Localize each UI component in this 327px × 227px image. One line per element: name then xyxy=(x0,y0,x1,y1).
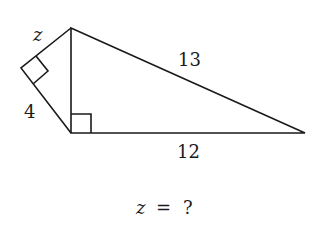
question-equals: = xyxy=(156,197,171,218)
right-angle-marker-left xyxy=(33,56,48,84)
label-z: z xyxy=(32,24,43,45)
question: z = ? xyxy=(135,197,193,218)
question-mark: ? xyxy=(183,197,193,218)
label-4: 4 xyxy=(24,101,35,122)
label-12: 12 xyxy=(177,141,200,162)
right-angle-marker-bottom xyxy=(71,114,91,133)
question-variable: z xyxy=(135,197,146,218)
large-triangle xyxy=(71,28,305,133)
geometry-diagram: z 4 13 12 z = ? xyxy=(0,0,327,227)
label-13: 13 xyxy=(178,49,201,70)
